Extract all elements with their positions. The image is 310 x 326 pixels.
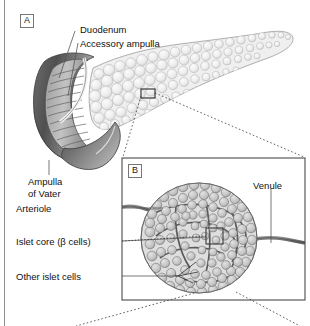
label-ampulla-of-vater-line1: Ampulla xyxy=(28,176,88,188)
label-ampulla-of-vater: Ampulla of Vater xyxy=(28,176,88,199)
label-ampulla-of-vater-line2: of Vater xyxy=(28,188,88,200)
label-other-islet-cells: Other islet cells xyxy=(16,271,81,282)
label-islet-core: Islet core (β cells) xyxy=(16,236,91,247)
label-duodenum: Duodenum xyxy=(80,24,126,35)
label-venule: Venule xyxy=(253,180,282,191)
panel-a-tag: A xyxy=(20,14,34,28)
magnification-leader-lines-lower xyxy=(76,292,300,326)
panel-b-tag: B xyxy=(128,164,142,178)
label-accessory-ampulla: Accessory ampulla xyxy=(80,38,160,49)
panel-b-contents xyxy=(122,180,305,297)
figure-pancreas-islet: A B Duodenum Accessory ampulla Ampulla o… xyxy=(0,0,310,326)
label-arteriole: Arteriole xyxy=(16,203,51,214)
